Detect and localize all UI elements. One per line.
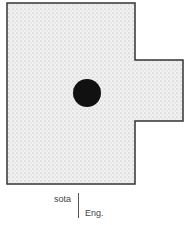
label-divider (78, 193, 79, 218)
term-label: sota (54, 194, 71, 204)
floor-plan-diagram (0, 0, 190, 190)
position-marker (73, 79, 101, 107)
language-label: Eng. (85, 208, 104, 218)
